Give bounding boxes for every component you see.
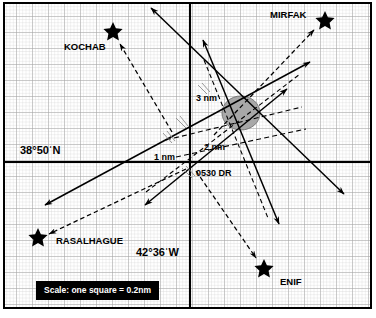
longitude-label: 42°36ˈW: [136, 247, 179, 258]
star-label-kochab: KOCHAB: [64, 42, 106, 52]
star-label-enif: ENIF: [280, 277, 302, 287]
star-label-mirfak: MIRFAK: [270, 10, 306, 20]
dr-position-label: 0530 DR: [196, 169, 232, 178]
star-label-rasalhague: RASALHAGUE: [56, 236, 123, 246]
latitude-label: 38°50ˈN: [20, 145, 60, 156]
scale-legend: Scale: one square = 0.2nm: [36, 281, 159, 300]
dr-position-marker: [188, 160, 192, 164]
range-label-1nm: 1 nm: [154, 153, 175, 162]
plot-canvas: [0, 0, 376, 318]
range-label-3nm: 3 nm: [196, 94, 217, 103]
range-label-2nm: 2 nm: [204, 143, 225, 152]
navigation-plot-figure: MIRFAK KOCHAB RASALHAGUE ENIF 38°50ˈN 42…: [0, 0, 376, 318]
grid-background: [0, 0, 376, 318]
